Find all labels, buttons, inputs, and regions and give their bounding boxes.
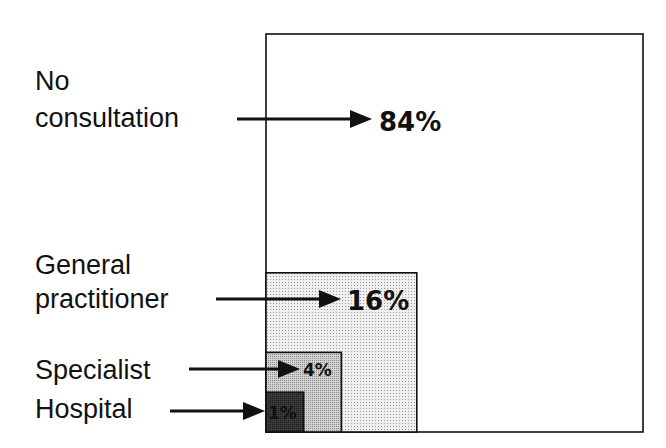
category-label-hospital: Hospital <box>35 394 133 424</box>
category-label-general-practitioner: General <box>35 250 131 280</box>
value-label-hospital: 1% <box>268 403 297 423</box>
value-label-no-consultation: 84% <box>379 107 441 137</box>
category-label-general-practitioner: practitioner <box>35 284 169 314</box>
category-label-specialist: Specialist <box>35 355 151 385</box>
nested-area-chart: NoconsultationGeneralpractitionerSpecial… <box>0 0 666 448</box>
category-label-no-consultation: No <box>35 66 70 96</box>
value-label-general-practitioner: 16% <box>347 286 409 316</box>
arrow-head-icon <box>243 402 265 420</box>
value-label-specialist: 4% <box>303 360 332 380</box>
category-label-no-consultation: consultation <box>35 103 179 133</box>
